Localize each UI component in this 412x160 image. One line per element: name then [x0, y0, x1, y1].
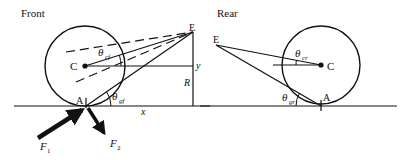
rear-title: Rear	[217, 7, 238, 19]
svg-text:θ: θ	[295, 47, 301, 59]
front-label-C: C	[70, 60, 77, 72]
front-label-y: y	[195, 60, 201, 71]
wheel-geometry-diagram: Front C E A y R x θ cf	[0, 0, 412, 160]
front-angle-arc-cf	[119, 55, 121, 66]
force-F2-arrow	[88, 108, 104, 133]
svg-text:θ: θ	[282, 91, 288, 103]
front-label-R: R	[183, 77, 190, 88]
svg-text:gr: gr	[289, 98, 296, 106]
rear-label-theta-cr: θ cr	[295, 47, 308, 62]
svg-text:cr: cr	[302, 54, 308, 62]
front-label-F2: F 2	[109, 137, 121, 152]
front-title: Front	[21, 7, 45, 19]
svg-text:F: F	[39, 140, 47, 152]
front-dashed-line-upper	[66, 32, 193, 52]
force-F1-arrow	[38, 110, 82, 138]
svg-text:θ: θ	[112, 90, 118, 102]
svg-text:gf: gf	[119, 97, 126, 105]
front-line-A-E	[86, 32, 193, 106]
svg-text:F: F	[109, 137, 117, 149]
svg-text:cf: cf	[105, 53, 111, 61]
front-label-theta-gf: θ gf	[112, 90, 126, 105]
svg-text:2: 2	[117, 144, 121, 152]
rear-label-E: E	[213, 34, 219, 45]
front-label-theta-cf: θ cf	[98, 46, 111, 61]
front-dashed-line-lower	[76, 32, 193, 82]
front-diagram: Front C E A y R x θ cf	[14, 7, 210, 155]
front-label-E: E	[189, 22, 195, 33]
rear-diagram: Rear E C A θ cr θ gr	[200, 7, 397, 111]
rear-label-A: A	[323, 92, 331, 103]
front-label-F1: F 1	[39, 140, 51, 155]
rear-label-C: C	[327, 60, 334, 72]
svg-text:1: 1	[47, 147, 51, 155]
svg-text:θ: θ	[98, 46, 104, 58]
front-label-A: A	[76, 95, 84, 106]
front-label-x: x	[140, 106, 146, 117]
